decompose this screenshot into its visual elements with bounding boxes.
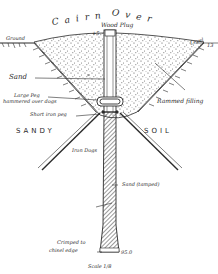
rammed-filling-label: Rammed filling (157, 98, 203, 104)
top-elevation-value: +5 (92, 31, 99, 36)
hammered-over-dogs-label: hammered over dogs (3, 99, 57, 104)
ground-label: Ground (6, 36, 25, 41)
diagram-drawing (0, 0, 218, 274)
benchmark-cross-section-diagram: Cairn Over Wood Plug +5 Ground Level 13 … (0, 0, 218, 274)
short-iron-peg-label: Short iron peg (30, 112, 67, 117)
level-value: 13 (207, 43, 213, 48)
wood-plug-label: Wood Plug (101, 22, 133, 28)
scale-label: Scale 1/8 (88, 264, 111, 269)
soil-label: SOIL (144, 128, 172, 135)
chisel-edge-label: chisel edge (49, 248, 78, 253)
sand-label: Sand (9, 74, 27, 81)
iron-dogs-label: Iron Dogs (72, 148, 97, 153)
crimped-label: Crimped to (57, 240, 86, 245)
bottom-elevation-value: 95.0 (121, 250, 132, 255)
wood-plug (105, 30, 115, 36)
sand-tamped-label: Sand (tamped) (122, 182, 159, 187)
sandy-label: SANDY (16, 128, 55, 135)
